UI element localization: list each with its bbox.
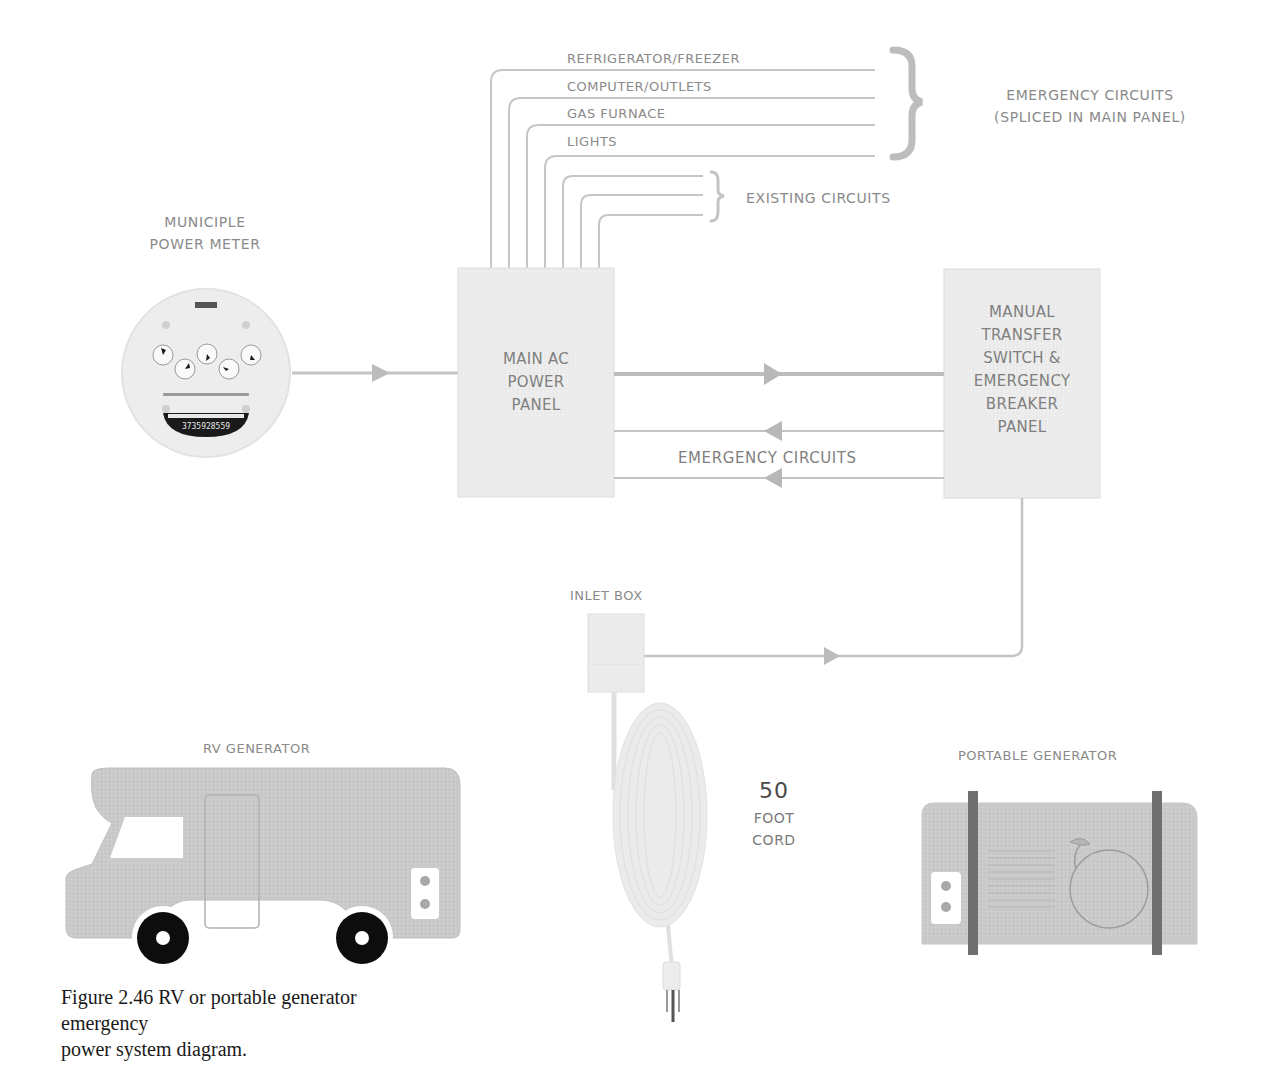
inlet-feed-line <box>644 498 1022 665</box>
circuit-label-refrigerator: REFRIGERATOR/FREEZER <box>567 48 740 70</box>
emergency-brace <box>893 50 922 157</box>
existing-circuits-label: EXISTING CIRCUITS <box>746 187 891 209</box>
transfer-panel-line6: PANEL <box>944 416 1100 439</box>
emergency-return-label: EMERGENCY CIRCUITS <box>678 447 857 469</box>
existing-circuit-wires <box>563 176 703 268</box>
diagram-canvas: 3735928559 <box>0 0 1261 1087</box>
caption-line1: Figure 2.46 RV or portable generator eme… <box>61 984 421 1036</box>
power-meter-graphic: 3735928559 <box>122 289 290 457</box>
transfer-panel-line3: SWITCH & <box>944 347 1100 370</box>
cord-coil-graphic <box>613 692 707 1022</box>
main-panel-line1: MAIN AC <box>458 348 614 371</box>
main-panel-line3: PANEL <box>458 394 614 417</box>
inlet-box-label: INLET BOX <box>570 585 643 607</box>
transfer-panel-line1: MANUAL <box>944 301 1100 324</box>
emergency-group-line2: (SPLICED IN MAIN PANEL) <box>960 106 1220 128</box>
transfer-panel-line5: BREAKER <box>944 393 1100 416</box>
cord-label-line3: CORD <box>744 829 804 851</box>
feed-to-transfer <box>614 363 944 385</box>
caption-line2: power system diagram. <box>61 1036 421 1062</box>
portable-generator-label: PORTABLE GENERATOR <box>958 745 1117 767</box>
existing-brace <box>711 172 724 221</box>
emergency-circuits-group-label: EMERGENCY CIRCUITS (SPLICED IN MAIN PANE… <box>960 84 1220 128</box>
cord-length: 50 <box>744 778 804 803</box>
circuit-label-computer: COMPUTER/OUTLETS <box>567 76 712 98</box>
cord-label: FOOT CORD <box>744 807 804 851</box>
main-panel-label: MAIN AC POWER PANEL <box>458 348 614 417</box>
main-panel-line2: POWER <box>458 371 614 394</box>
rv-graphic <box>66 768 460 968</box>
transfer-panel-line4: EMERGENCY <box>944 370 1100 393</box>
meter-label-line2: POWER METER <box>130 233 280 255</box>
circuit-label-gas-furnace: GAS FURNACE <box>567 103 666 125</box>
circuit-label-lights: LIGHTS <box>567 131 617 153</box>
cord-label-line2: FOOT <box>744 807 804 829</box>
transfer-panel-line2: TRANSFER <box>944 324 1100 347</box>
power-meter-label: MUNICIPLE POWER METER <box>130 211 280 255</box>
portable-generator-graphic <box>922 791 1197 955</box>
meter-label-line1: MUNICIPLE <box>130 211 280 233</box>
figure-caption: Figure 2.46 RV or portable generator eme… <box>61 984 421 1062</box>
inlet-box-graphic <box>588 614 644 692</box>
emergency-circuit-wires <box>491 70 875 268</box>
emergency-group-line1: EMERGENCY CIRCUITS <box>960 84 1220 106</box>
svg-text:3735928559: 3735928559 <box>182 422 230 431</box>
rv-generator-label: RV GENERATOR <box>203 738 310 760</box>
meter-to-panel-feed <box>292 364 458 382</box>
transfer-panel-label: MANUAL TRANSFER SWITCH & EMERGENCY BREAK… <box>944 301 1100 439</box>
diagram-graphics: 3735928559 <box>0 0 1261 1087</box>
